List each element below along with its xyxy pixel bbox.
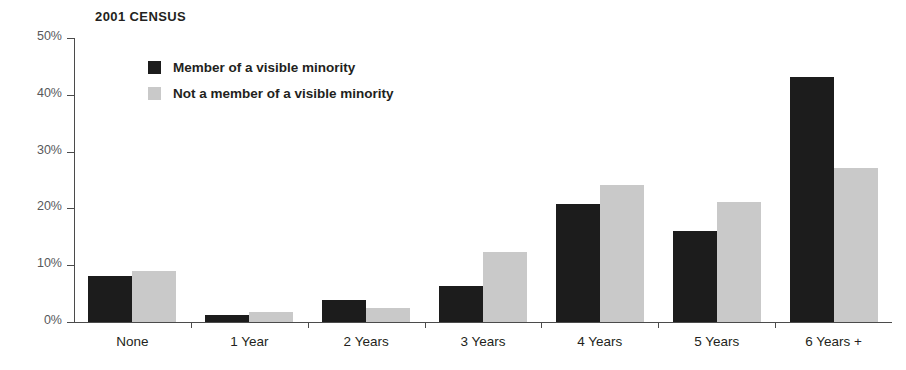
bar	[834, 168, 878, 322]
x-axis-tick-mark	[775, 322, 776, 328]
y-axis-tick: 0%	[10, 322, 74, 323]
bar	[790, 77, 834, 322]
legend-item: Not a member of a visible minority	[148, 82, 394, 104]
bar	[673, 231, 717, 322]
y-axis-tick-label: 0%	[44, 313, 62, 327]
bar	[249, 312, 293, 322]
y-axis-tick: 40%	[10, 95, 74, 96]
y-axis-tick: 50%	[10, 38, 74, 39]
y-axis-tick: 30%	[10, 152, 74, 153]
bar	[205, 315, 249, 322]
y-axis-tick-mark	[67, 208, 74, 209]
bar	[366, 308, 410, 322]
x-axis-line	[74, 322, 892, 323]
x-axis-tick-label: 4 Years	[577, 334, 622, 349]
x-axis-tick-mark	[541, 322, 542, 328]
bar	[322, 300, 366, 322]
x-axis-tick-mark	[658, 322, 659, 328]
bar	[600, 185, 644, 322]
legend-label: Not a member of a visible minority	[173, 86, 394, 101]
x-axis-tick-label: 5 Years	[694, 334, 739, 349]
bar	[717, 202, 761, 322]
x-axis-tick-label: 1 Year	[230, 334, 268, 349]
y-axis-tick-label: 20%	[37, 199, 62, 213]
x-axis-tick-label: None	[116, 334, 148, 349]
y-axis-tick-label: 10%	[37, 256, 62, 270]
legend-swatch-icon	[148, 87, 161, 100]
y-axis-tick-mark	[67, 38, 74, 39]
y-axis-tick: 10%	[10, 265, 74, 266]
x-axis-tick-mark	[191, 322, 192, 328]
chart-legend: Member of a visible minorityNot a member…	[148, 56, 394, 108]
legend-label: Member of a visible minority	[173, 60, 355, 75]
bar	[556, 204, 600, 322]
y-axis-tick-mark	[67, 95, 74, 96]
legend-swatch-icon	[148, 61, 161, 74]
y-axis-tick-mark	[67, 322, 74, 323]
y-axis-tick-mark	[67, 265, 74, 266]
bar	[439, 286, 483, 322]
x-axis-tick-mark	[308, 322, 309, 328]
legend-item: Member of a visible minority	[148, 56, 394, 78]
x-axis-tick-label: 6 Years +	[805, 334, 862, 349]
x-axis-tick-mark	[425, 322, 426, 328]
chart-title: 2001 CENSUS	[95, 9, 186, 24]
y-axis-tick-label: 30%	[37, 143, 62, 157]
y-axis-tick-mark	[67, 152, 74, 153]
x-axis-tick-label: 3 Years	[460, 334, 505, 349]
x-axis-tick-label: 2 Years	[344, 334, 389, 349]
bar-chart: 2001 CENSUS 0%10%20%30%40%50% None1 Year…	[0, 0, 906, 370]
y-axis-tick-label: 50%	[37, 29, 62, 43]
bar	[132, 271, 176, 322]
bar	[88, 276, 132, 322]
y-axis-tick-label: 40%	[37, 86, 62, 100]
bar	[483, 252, 527, 322]
y-axis-line	[74, 38, 75, 323]
y-axis-tick: 20%	[10, 208, 74, 209]
